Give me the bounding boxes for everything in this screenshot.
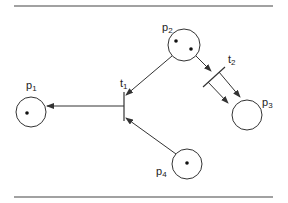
token (174, 39, 178, 43)
transition-t2 (204, 117, 226, 138)
transition-t2-bar (203, 67, 225, 87)
label-p2: p2 (162, 22, 173, 35)
label-t1: t1 (120, 78, 128, 91)
token (185, 161, 189, 165)
label-p3: p3 (262, 97, 273, 110)
arc-p2-t2 (196, 56, 211, 71)
token (189, 47, 193, 51)
place-p4 (172, 149, 202, 179)
label-p1: p1 (26, 80, 37, 93)
arc-p2-t1 (126, 56, 172, 95)
arc-t2-p3-b (208, 82, 228, 103)
petri-net-diagram: p1 p2 p3 p4 t1 t2 (0, 0, 288, 203)
label-p4: p4 (156, 166, 167, 179)
arc-p4-t1 (126, 118, 176, 154)
place-p3 (232, 100, 262, 130)
label-t2: t2 (228, 54, 236, 67)
place-p1 (16, 97, 46, 127)
arc-t2-p3-a (219, 72, 240, 97)
token (25, 111, 29, 115)
